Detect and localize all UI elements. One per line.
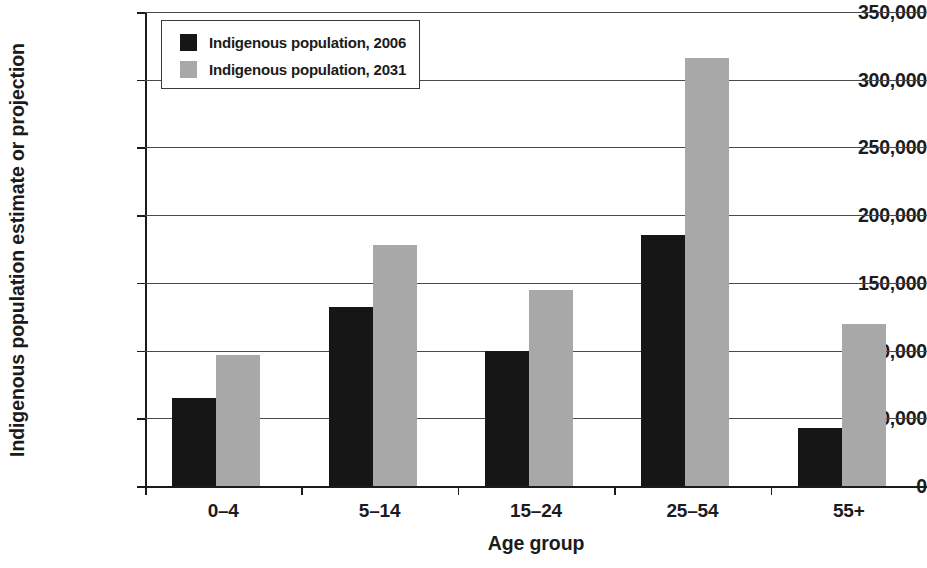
x-axis-tick-label: 5–14 [307, 500, 453, 522]
x-axis-tick-mark [614, 486, 616, 495]
legend-swatch-icon [180, 34, 197, 51]
bar [529, 290, 573, 486]
x-axis-tick-mark [771, 486, 773, 495]
chart-legend: Indigenous population, 2006Indigenous po… [161, 20, 420, 89]
legend-item: Indigenous population, 2006 [180, 30, 419, 55]
y-axis-title: Indigenous population estimate or projec… [0, 0, 34, 500]
x-axis-tick-label: 55+ [776, 500, 922, 522]
x-axis-tick-mark [145, 486, 147, 495]
bar-chart: Indigenous population estimate or projec… [0, 0, 927, 568]
bar [373, 245, 417, 486]
x-axis-tick-mark [301, 486, 303, 495]
gridline [145, 283, 927, 284]
gridline [145, 12, 927, 13]
x-axis-tick-label: 15–24 [463, 500, 609, 522]
bar [216, 355, 260, 486]
x-axis-tick-mark [458, 486, 460, 495]
legend-item-label: Indigenous population, 2006 [209, 34, 406, 51]
bar [485, 351, 529, 486]
x-axis-title: Age group [145, 532, 927, 555]
gridline [145, 147, 927, 148]
legend-swatch-icon [180, 61, 197, 78]
x-axis-tick-label: 25–54 [619, 500, 765, 522]
bar [685, 58, 729, 486]
gridline [145, 215, 927, 216]
x-axis-tick-label: 0–4 [150, 500, 296, 522]
gridline [145, 486, 927, 488]
legend-item-label: Indigenous population, 2031 [209, 61, 406, 78]
legend-item: Indigenous population, 2031 [180, 57, 419, 82]
bar [842, 324, 886, 487]
bar [798, 428, 842, 486]
bar [641, 235, 685, 486]
bar [172, 398, 216, 486]
bar [329, 307, 373, 486]
